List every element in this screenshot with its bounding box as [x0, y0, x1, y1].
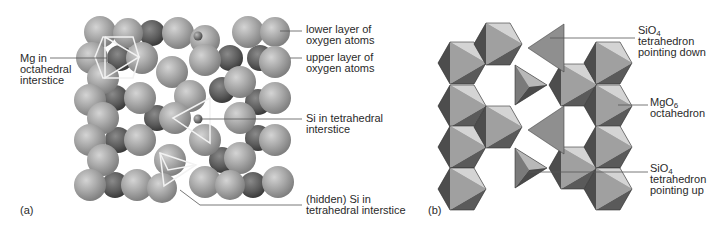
panel-a-atomic-packing: Mg in octahedral interstice lower layer … [0, 0, 400, 236]
label-sio4-pointing-down: SiO4 tetrahedron pointing down [638, 25, 706, 58]
panel-a-tag: (a) [20, 204, 33, 216]
label-sio4-pointing-up: SiO4 tetrahedron pointing up [650, 163, 706, 196]
panel-b-polyhedra: SiO4 tetrahedron pointing down MgO6 octa… [360, 0, 720, 236]
label-mgo6-octahedron: MgO6 octahedron [650, 97, 705, 119]
label-mg-octahedral-interstice: Mg in octahedral interstice [20, 53, 71, 86]
panel-b-tag: (b) [428, 204, 441, 216]
